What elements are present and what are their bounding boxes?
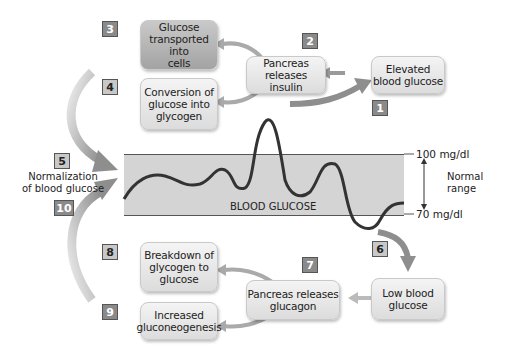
lower-limit-label: 70 mg/dl [416,208,463,220]
normal-range-label: Normalrange [447,171,483,195]
upper-limit-label: 100 mg/dl [416,148,469,160]
chart-label: BLOOD GLUCOSE [230,201,316,212]
text: Normal [447,171,483,182]
glucose-curve [0,0,509,360]
text: range [447,183,476,194]
